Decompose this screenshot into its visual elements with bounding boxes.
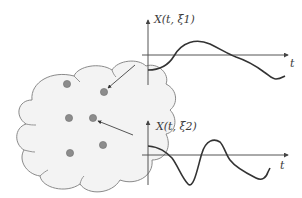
plot-label-xi2: X(t, ξ2) [156,121,197,132]
sample-space-cloud [17,61,176,192]
t-axis-label-2: t [280,160,284,171]
random-process-diagram [0,0,302,198]
plot-label-xi1: X(t, ξ1) [154,14,195,25]
outcome-dot-xi2 [89,114,96,121]
outcome-dot [99,141,106,148]
outcome-dot [66,149,73,156]
t-axis-label-1: t [290,58,294,69]
outcome-dot [63,80,70,87]
outcome-dot [65,114,72,121]
sample-function-xi1 [148,41,285,79]
outcome-dot-xi1 [100,88,107,95]
